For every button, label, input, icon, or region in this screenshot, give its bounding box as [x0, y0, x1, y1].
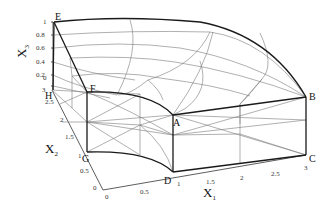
mesh-lines: [52, 20, 306, 172]
edge-E-F: [54, 22, 87, 92]
vertex-label-F: F: [90, 83, 96, 94]
x3-tick-1: 1: [43, 18, 47, 26]
x1-axis-label: X1: [203, 185, 216, 202]
x3-tick-0.4: 0.4: [36, 58, 45, 66]
x3-axis: 1 0.8 0.6 0.4 0.2 0: [36, 18, 53, 90]
x2-tick-1.5: 1.5: [65, 133, 74, 141]
x2-tick-0.5: 0.5: [80, 167, 89, 175]
boundary-edges: [53, 19, 306, 173]
mesh-diagram: 1 0.8 0.6 0.4 0.2 0 X3 3 2.5 2 1.5 1 0.5…: [0, 0, 332, 213]
x2-tick-2: 2: [60, 116, 64, 124]
x3-tick-0.8: 0.8: [36, 31, 45, 39]
x1-tick-1: 1: [177, 180, 181, 188]
x1-tick-2: 2: [240, 174, 244, 182]
x3-tick-0: 0: [43, 74, 47, 82]
x3-tick-0.6: 0.6: [36, 44, 45, 52]
x1-tick-0.5: 0.5: [140, 188, 149, 196]
edge-A-B: [173, 97, 306, 115]
x3-axis-label: X3: [14, 45, 31, 58]
x2-axis: 3 2.5 2 1.5 1 0.5 0: [42, 86, 103, 192]
vertex-label-G: G: [82, 153, 89, 164]
x1-tick-0: 0: [105, 193, 109, 201]
x1-tick-2.5: 2.5: [271, 170, 280, 178]
edge-D-C: [173, 155, 306, 172]
x1-tick-3: 3: [304, 164, 308, 172]
vertex-label-C: C: [309, 153, 316, 164]
vertex-label-B: B: [309, 91, 316, 102]
vertex-label-A: A: [173, 117, 181, 128]
vertex-label-E: E: [55, 11, 61, 22]
edge-G-D: [87, 152, 173, 172]
vertex-label-H: H: [45, 90, 52, 101]
x2-axis-label: X2: [45, 141, 58, 158]
vertex-label-D: D: [164, 175, 171, 186]
x2-tick-0: 0: [93, 184, 97, 192]
